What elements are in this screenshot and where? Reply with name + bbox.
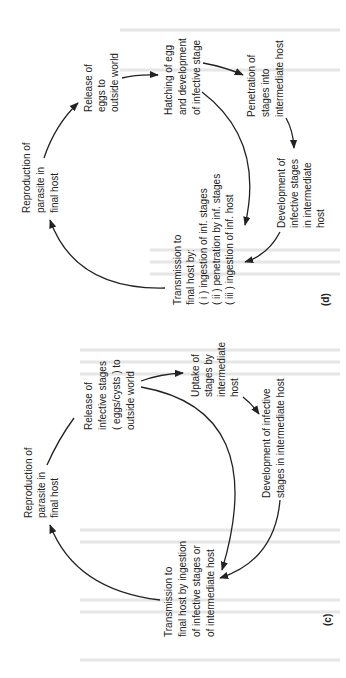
life-cycle-figure: Release of eggs to outside world Hatchin… [0,0,346,678]
node-transmission-c: Transmission to final host by ingestion … [163,538,216,637]
node-reproduction-d: Reproduction of parasite in final host [21,140,60,213]
node-reproduction-c: Reproduction of parasite in final host [23,445,60,518]
node-release-eggs: Release of eggs to outside world [83,53,120,112]
arrow-development-to-transmission-c [220,500,280,578]
caption-d: (d) [320,293,331,306]
diagram-d: Release of eggs to outside world Hatchin… [21,35,331,306]
arrow-transmission-to-reproduction-d [50,220,165,288]
node-transmission-d: Transmission to final host by: ( i ) ing… [172,171,235,305]
node-uptake: Uptake of stages by intermediate host [190,339,240,397]
caption-c: (c) [322,614,333,626]
node-penetration: Penetration of stages into intermediate … [246,40,285,117]
arrow-penetration-to-development-d [286,118,294,148]
arrow-transmission-to-reproduction-c [50,525,160,600]
node-release-infective-stages: Release of infective stages ( eggs/cysts… [83,357,136,430]
arrow-reproduction-to-release-c [47,418,74,465]
arrow-development-to-transmission-d [245,232,280,262]
node-development-d: Development of infective stages in inter… [276,155,326,228]
diagram-c: Release of infective stages ( eggs/cysts… [23,339,333,637]
node-development-c: Development of infective stages in inter… [261,378,286,498]
arrow-reproduction-to-release-d [44,103,78,158]
arrow-uptake-to-development-c [243,397,259,414]
node-hatching: Hatching of egg and development of infec… [163,35,202,115]
arrow-release-to-hatching-d [122,75,158,78]
